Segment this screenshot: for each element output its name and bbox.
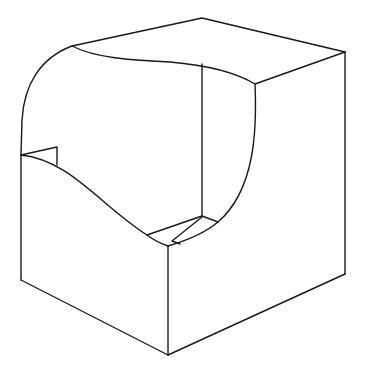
cube-cutout-drawing (0, 0, 367, 374)
top-right-edge (255, 52, 345, 84)
top-back-edge (72, 18, 345, 52)
left-rounded-edge (21, 46, 72, 155)
solid-figure-canvas (0, 0, 367, 374)
lower-curve (21, 155, 168, 246)
top-curved-edge (72, 46, 255, 84)
inner-curved-edge (218, 84, 256, 222)
bottom-left-edge (21, 280, 168, 355)
bottom-right-edge (168, 274, 345, 355)
